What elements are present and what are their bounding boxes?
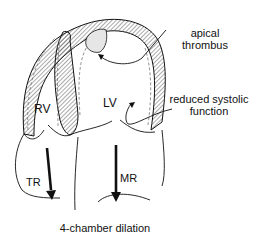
left-atrium-wall <box>162 130 164 186</box>
apical-thrombus-line2: thrombus <box>165 39 245 51</box>
tr-arrow-head <box>46 190 56 200</box>
mr-label: MR <box>120 172 137 184</box>
apical-thrombus-label: apical thrombus <box>165 27 245 51</box>
right-atrium <box>15 134 60 198</box>
reduced-function-line2: function <box>164 105 254 117</box>
left-atrium-floor <box>98 194 150 202</box>
caption: 4-chamber dilation <box>30 222 180 234</box>
mr-arrow-head <box>111 192 121 202</box>
apical-thrombus-pointer-head <box>98 54 104 60</box>
rv-label: RV <box>34 103 50 115</box>
reduced-function-line1: reduced systolic <box>164 93 254 105</box>
reduced-function-label: reduced systolic function <box>164 93 254 117</box>
apical-thrombus-line1: apical <box>165 27 245 39</box>
lv-endocardium-dashed <box>79 45 151 125</box>
tr-arrow-shaft <box>47 148 51 190</box>
lv-label: LV <box>103 97 117 109</box>
tr-label: TR <box>26 176 41 188</box>
atrial-septum <box>75 137 78 210</box>
